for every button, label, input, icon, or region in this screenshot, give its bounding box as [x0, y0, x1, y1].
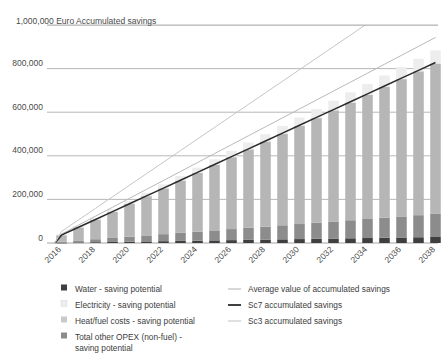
bar-segment — [362, 238, 373, 243]
accumulated-savings-chart: 800,000600,000400,000200,0000 2016201820… — [0, 0, 444, 364]
legend-item[interactable]: Average value of accumulated savings — [228, 284, 390, 294]
bar-segment — [141, 241, 152, 243]
bar-segment — [158, 241, 169, 243]
bar-segment — [90, 242, 101, 243]
bar-segment — [396, 216, 407, 237]
bar-stack — [345, 92, 356, 243]
bar-stack — [277, 126, 288, 243]
legend-item-label: Heat/fuel costs - saving potential — [75, 316, 195, 326]
bar-segment — [107, 242, 118, 243]
bar-segment — [260, 142, 271, 227]
bar-segment — [430, 50, 441, 63]
bar-segment — [277, 134, 288, 226]
bar-segment — [209, 230, 220, 240]
legend-item-label: Electricity - saving potential — [75, 300, 176, 310]
legend-item-label: Water - saving potential — [75, 284, 162, 294]
bar-stack — [396, 67, 407, 243]
bar-segment — [209, 240, 220, 243]
legend-item[interactable]: Electricity - saving potential — [61, 300, 176, 310]
bar-stack — [430, 50, 441, 243]
bar-segment — [345, 220, 356, 238]
bar-stack — [107, 210, 118, 243]
bar-segment — [90, 239, 101, 242]
bar-stack — [175, 176, 186, 243]
bar-segment — [430, 237, 441, 243]
bar-segment — [311, 118, 322, 223]
bar-segment — [328, 239, 339, 243]
bar-segment — [175, 233, 186, 241]
bar-segment — [260, 240, 271, 243]
bar-stack — [379, 76, 390, 243]
bar-segment — [124, 204, 135, 237]
bar-segment — [277, 239, 288, 243]
bar-segment — [56, 243, 67, 244]
legend-item-label: Sc7 accumulated savings — [248, 300, 342, 310]
bar-segment — [107, 238, 118, 242]
bar-segment — [192, 241, 203, 243]
chart-background — [0, 0, 444, 364]
bar-segment — [345, 238, 356, 243]
bar-segment — [243, 240, 254, 243]
bar-segment — [328, 222, 339, 239]
bar-stack — [413, 59, 424, 243]
bar-segment — [396, 67, 407, 79]
bar-segment — [413, 215, 424, 237]
bar-segment — [124, 237, 135, 242]
bar-segment — [107, 212, 118, 238]
legend-square-swatch — [61, 301, 67, 307]
bar-segment — [73, 242, 84, 243]
bar-stack — [209, 159, 220, 243]
bar-segment — [141, 196, 152, 235]
bar-segment — [56, 242, 67, 243]
bar-segment — [430, 214, 441, 237]
bar-segment — [175, 181, 186, 233]
bar-segment — [379, 76, 390, 87]
bar-segment — [413, 237, 424, 243]
bar-segment — [362, 95, 373, 219]
bar-segment — [277, 225, 288, 239]
bar-segment — [124, 242, 135, 243]
y-axis-tick-label: 600,000 — [12, 102, 43, 112]
legend-item[interactable]: Water - saving potential — [61, 284, 162, 294]
bar-stack — [328, 101, 339, 243]
legend-item-label: Average value of accumulated savings — [248, 284, 390, 294]
bar-segment — [73, 240, 84, 242]
bar-segment — [345, 103, 356, 221]
legend-square-swatch — [61, 317, 67, 323]
bar-segment — [243, 228, 254, 240]
bar-segment — [192, 173, 203, 232]
bar-stack — [311, 109, 322, 243]
bar-segment — [226, 157, 237, 229]
bar-segment — [379, 218, 390, 238]
bar-segment — [396, 79, 407, 216]
bar-segment — [294, 224, 305, 239]
bar-segment — [226, 240, 237, 243]
bar-segment — [328, 110, 339, 221]
bar-stack — [260, 134, 271, 243]
legend-item-label: Sc3 accumulated savings — [248, 316, 342, 326]
legend-item-label-cont: saving potential — [75, 343, 133, 353]
legend-item[interactable]: Heat/fuel costs - saving potential — [61, 316, 195, 326]
y-axis-tick-label: 400,000 — [12, 145, 43, 155]
bar-stack — [294, 117, 305, 243]
bar-stack — [124, 201, 135, 243]
bar-segment — [379, 238, 390, 243]
bar-stack — [158, 184, 169, 243]
bar-segment — [362, 219, 373, 238]
bar-segment — [260, 227, 271, 240]
y-axis-tick-label: 200,000 — [12, 189, 43, 199]
chart-title: 1,000,000 Euro Accumulated savings — [16, 16, 156, 26]
bar-segment — [158, 234, 169, 241]
bar-segment — [379, 87, 390, 218]
bar-segment — [90, 220, 101, 240]
chart-canvas: 800,000600,000400,000200,0000 2016201820… — [0, 0, 444, 364]
legend-item-label: Total other OPEX (non-fuel) - — [75, 332, 182, 342]
bar-segment — [294, 126, 305, 224]
bar-segment — [430, 63, 441, 213]
bar-stack — [141, 193, 152, 243]
bar-segment — [141, 235, 152, 241]
bar-segment — [311, 223, 322, 239]
y-axis-tick-label: 0 — [38, 233, 43, 243]
legend-square-swatch — [61, 285, 67, 291]
bar-segment — [243, 149, 254, 227]
